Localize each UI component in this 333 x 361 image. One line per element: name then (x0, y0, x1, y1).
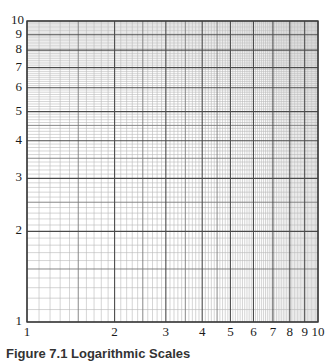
y-tick-label: 2 (2, 223, 22, 236)
x-tick-label: 4 (192, 325, 212, 338)
x-tick-label: 10 (308, 325, 328, 338)
x-tick-label: 6 (243, 325, 263, 338)
y-tick-label: 4 (2, 133, 22, 146)
figure-caption: Figure 7.1 Logarithmic Scales (6, 346, 190, 361)
plot-border (27, 21, 318, 322)
y-tick-label: 10 (4, 13, 24, 26)
y-tick-label: 6 (2, 80, 22, 93)
y-tick-label: 9 (2, 27, 22, 40)
y-tick-label: 5 (2, 104, 22, 117)
log-log-grid (27, 21, 318, 322)
x-tick-label: 1 (17, 325, 37, 338)
grid-lines (27, 21, 318, 322)
y-tick-label: 7 (2, 60, 22, 73)
x-tick-label: 3 (156, 325, 176, 338)
x-tick-label: 5 (220, 325, 240, 338)
x-tick-label: 2 (105, 325, 125, 338)
y-tick-label: 3 (2, 170, 22, 183)
y-tick-label: 8 (2, 42, 22, 55)
